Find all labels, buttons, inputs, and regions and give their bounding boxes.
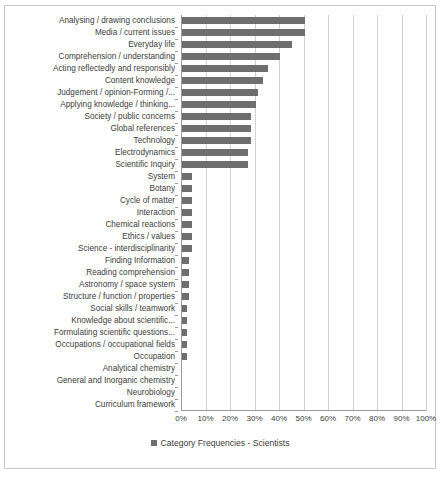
bar-row	[181, 267, 426, 279]
bar[interactable]	[182, 245, 192, 252]
category-label: Judgement / opinion-Forming /...	[15, 87, 175, 99]
category-label: Analysing / drawing conclusions	[15, 15, 175, 27]
bar-row	[181, 219, 426, 231]
bar[interactable]	[182, 173, 192, 180]
x-axis-tick-label: 30%	[246, 414, 262, 423]
category-label: Applying knowledge / thinking...	[15, 99, 175, 111]
chart-frame: Analysing / drawing conclusionsMedia / c…	[4, 5, 436, 469]
chart-legend: Category Frequencies - Scientists	[5, 438, 435, 448]
category-label: Astronomy / space system	[15, 279, 175, 291]
category-tick	[175, 207, 178, 208]
bar-row	[181, 327, 426, 339]
bar[interactable]	[182, 137, 251, 144]
bar[interactable]	[182, 77, 263, 84]
bar[interactable]	[182, 221, 192, 228]
category-label: Knowledge about scientific...	[15, 315, 175, 327]
bar[interactable]	[182, 353, 187, 360]
category-tick	[175, 303, 178, 304]
category-label: Everyday life	[15, 39, 175, 51]
category-label: Media / current issues	[15, 27, 175, 39]
x-axis-tick-label: 0%	[175, 414, 187, 423]
bar-row	[181, 27, 426, 39]
bar-row	[181, 159, 426, 171]
category-label: Botany	[15, 183, 175, 195]
category-tick	[175, 123, 178, 124]
x-axis-tick-label: 10%	[197, 414, 213, 423]
category-label: Occupations / occupational fields	[15, 339, 175, 351]
bar[interactable]	[182, 281, 189, 288]
bar[interactable]	[182, 53, 280, 60]
bar[interactable]	[182, 17, 305, 24]
category-label: Global references	[15, 123, 175, 135]
gridline	[426, 15, 427, 411]
category-label: Chemical reactions	[15, 219, 175, 231]
bar[interactable]	[182, 161, 248, 168]
bar-row	[181, 255, 426, 267]
category-label: Social skills / teamwork	[15, 303, 175, 315]
bar[interactable]	[182, 29, 305, 36]
bar-row	[181, 123, 426, 135]
bar[interactable]	[182, 185, 192, 192]
bar[interactable]	[182, 329, 187, 336]
bar[interactable]	[182, 65, 268, 72]
x-axis-tick-label: 100%	[416, 414, 436, 423]
bar[interactable]	[182, 305, 187, 312]
bar-row	[181, 375, 426, 387]
category-tick	[175, 99, 178, 100]
category-tick	[175, 159, 178, 160]
category-label: Occupation	[15, 351, 175, 363]
category-axis-labels: Analysing / drawing conclusionsMedia / c…	[15, 15, 178, 411]
category-label: Cycle of matter	[15, 195, 175, 207]
bar-row	[181, 15, 426, 27]
bar[interactable]	[182, 41, 292, 48]
bar-row	[181, 303, 426, 315]
bar[interactable]	[182, 113, 251, 120]
x-axis-tick-label: 90%	[393, 414, 409, 423]
bar[interactable]	[182, 269, 189, 276]
category-tick	[175, 279, 178, 280]
bar-row	[181, 279, 426, 291]
category-tick	[175, 87, 178, 88]
bar[interactable]	[182, 293, 189, 300]
legend-label: Category Frequencies - Scientists	[161, 438, 290, 448]
bar[interactable]	[182, 233, 192, 240]
category-label: Content knowledge	[15, 75, 175, 87]
bar[interactable]	[182, 125, 251, 132]
bar[interactable]	[182, 209, 192, 216]
bar-row	[181, 75, 426, 87]
category-tick	[175, 255, 178, 256]
bar-row	[181, 99, 426, 111]
category-tick	[175, 27, 178, 28]
category-tick	[175, 363, 178, 364]
category-label: Structure / function / properties	[15, 291, 175, 303]
bar-row	[181, 111, 426, 123]
category-label: Curriculum framework	[15, 399, 175, 411]
category-label: Acting reflectedly and responsibly	[15, 63, 175, 75]
bar[interactable]	[182, 197, 192, 204]
bar[interactable]	[182, 89, 258, 96]
category-label: Analytical chemistry	[15, 363, 175, 375]
bar[interactable]	[182, 317, 187, 324]
category-label: Electrodynamics	[15, 147, 175, 159]
bar[interactable]	[182, 149, 248, 156]
bar-row	[181, 87, 426, 99]
bar-row	[181, 207, 426, 219]
x-axis-tick-label: 50%	[295, 414, 311, 423]
bar[interactable]	[182, 257, 189, 264]
category-label: Society / public concerns	[15, 111, 175, 123]
bar-row	[181, 291, 426, 303]
value-axis-labels: 0%10%20%30%40%50%60%70%80%90%100%	[181, 414, 426, 428]
bar[interactable]	[182, 101, 256, 108]
category-tick	[175, 387, 178, 388]
category-label: Formulating scientific questions...	[15, 327, 175, 339]
bar-row	[181, 63, 426, 75]
x-axis-tick-label: 40%	[271, 414, 287, 423]
x-axis-tick-label: 20%	[222, 414, 238, 423]
category-label: General and Inorganic chemistry	[15, 375, 175, 387]
bar-row	[181, 231, 426, 243]
bar-row	[181, 315, 426, 327]
category-axis-line	[181, 410, 426, 411]
bar[interactable]	[182, 341, 187, 348]
category-tick	[175, 195, 178, 196]
category-tick	[175, 267, 178, 268]
